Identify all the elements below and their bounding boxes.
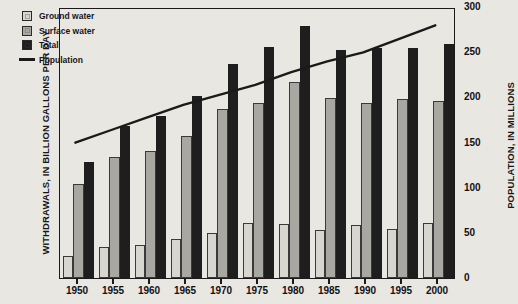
legend-label: Ground water [39,11,94,21]
y-axis-right-tick-label: 200 [464,91,504,102]
legend-item-population: Population [22,54,95,66]
y-axis-right-tick-label: 50 [464,227,504,238]
legend-label: Total [39,40,59,50]
population-line-swatch-icon [19,58,35,61]
surface-water-swatch-icon [22,26,32,36]
legend-item-surface-water: Surface water [22,25,95,37]
legend-item-ground-water: Ground water [22,10,95,22]
y-axis-right-title: POPULATION, IN MILLIONS [505,16,516,276]
y-axis-right-tick-label: 250 [464,46,504,57]
x-axis-tick-label: 2000 [414,285,460,296]
chart-legend: Ground water Surface water Total Populat… [22,10,95,66]
y-axis-right-tick-label: 300 [464,1,504,12]
y-axis-right-tick-label: 0 [464,272,504,283]
legend-label: Population [39,55,83,65]
y-axis-right-tick-label: 150 [464,137,504,148]
total-swatch-icon [22,40,32,50]
ground-water-swatch-icon [22,11,32,21]
plot-area [59,8,455,279]
population-line [60,9,456,280]
chart-figure: WITHDRAWALS, IN BILLION GALLONS PER DAY … [0,0,518,304]
legend-item-total: Total [22,39,95,51]
legend-label: Surface water [39,26,95,36]
y-axis-right-tick-label: 100 [464,182,504,193]
